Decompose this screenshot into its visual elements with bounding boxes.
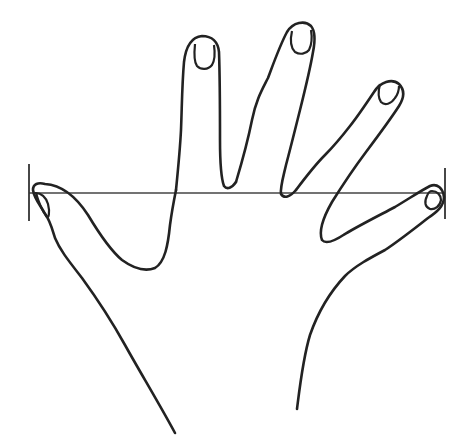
index-finger-nail (194, 44, 214, 69)
middle-finger-outline (236, 23, 315, 197)
ring-finger-nail (379, 84, 399, 104)
thumb-nail (36, 193, 49, 217)
hand-span-diagram (0, 0, 465, 445)
middle-finger-nail (291, 30, 312, 54)
index-finger-outline (176, 36, 236, 190)
ring-finger-outline (296, 81, 403, 242)
thumb-outline (33, 183, 176, 433)
little-finger-outline (297, 185, 444, 409)
